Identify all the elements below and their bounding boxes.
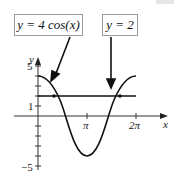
y-tick-1: 1: [28, 100, 34, 112]
intersection-point-1: [52, 94, 56, 98]
y-tick-5: 5: [27, 60, 33, 72]
line-pointer-arrow: [107, 37, 115, 88]
x-tick-pi: π: [83, 119, 89, 131]
intersection-point-2: [118, 94, 122, 98]
graph: y 5 1 −5 π 2π x: [0, 0, 179, 187]
y-tick-neg5: −5: [21, 161, 33, 173]
curve-pointer-arrow: [51, 37, 70, 81]
x-axis-label: x: [162, 118, 168, 130]
x-tick-2pi: 2π: [129, 119, 141, 131]
x-axis: [14, 113, 164, 119]
y-axis-arrowhead: [35, 57, 41, 65]
